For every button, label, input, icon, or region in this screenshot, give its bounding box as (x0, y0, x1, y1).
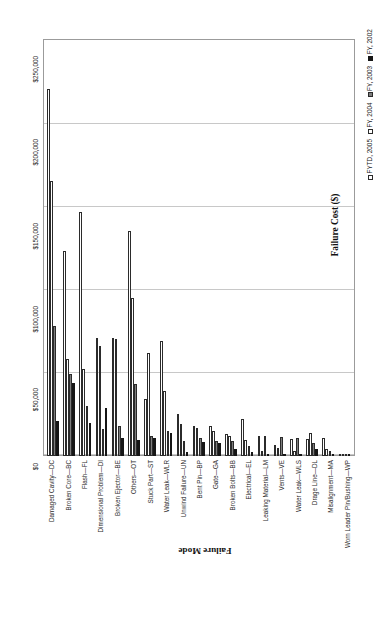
category-axis-cell: Drage Line—DL (306, 458, 322, 578)
category-axis-cell: Electrical—EL (240, 458, 256, 578)
bar-group (223, 39, 239, 456)
legend-swatch-icon (368, 129, 373, 134)
bar (283, 454, 286, 457)
bar (332, 454, 335, 456)
category-axis-tick-label: Dimensional Problem—DI (97, 460, 104, 532)
bar-group (288, 39, 304, 456)
category-axis-tick-label: Leaking Material—LM (261, 460, 268, 521)
category-axis-cell: Broken Ejector—BE (109, 458, 125, 578)
value-axis-tick-label: $250,000 (36, 56, 43, 83)
category-axis-cell: Vents—VE (273, 458, 289, 578)
legend-item: FY, 2003 (366, 66, 373, 98)
legend-item: FY, 2002 (366, 29, 373, 61)
category-axis-cell: Broken Core—BC (59, 458, 75, 578)
bar-group (239, 39, 255, 456)
category-axis-cell: Water Leak—WLR (158, 458, 174, 578)
category-axis-tick-label: Water Leak—WLR (163, 460, 170, 512)
bar (186, 452, 189, 456)
bar (89, 423, 92, 456)
bar-group (256, 39, 272, 456)
bar-group (126, 39, 142, 456)
category-axis-cell: Dimensional Problem—DI (92, 458, 108, 578)
bar-group (142, 39, 158, 456)
bar (153, 438, 156, 456)
category-axis-cell: Misalignment—MA (322, 458, 338, 578)
bar (267, 454, 270, 457)
bar-group (175, 39, 191, 456)
legend-swatch-icon (368, 56, 373, 61)
bar-group (207, 39, 223, 456)
category-axis-tick-label: Vents—VE (278, 460, 285, 490)
legend-item: FYTD, 2005 (366, 139, 373, 180)
category-axis-cell: Gate—GA (207, 458, 223, 578)
bar (251, 452, 254, 456)
bar (56, 421, 59, 456)
chart-canvas: $0$50,000$100,000$150,000$200,000$250,00… (0, 0, 386, 621)
bar-group (272, 39, 288, 456)
value-axis-tick-label: $200,000 (36, 139, 43, 166)
bar (218, 443, 221, 456)
bar (299, 454, 302, 456)
category-axis-cell: Bent Pin—BP (191, 458, 207, 578)
category-axis-tick-label: Stuck Part—ST (146, 460, 153, 503)
value-axis: $0$50,000$100,000$150,000$200,000$250,00… (0, 39, 43, 456)
legend-label: FYTD, 2005 (366, 139, 373, 173)
legend-item: FY, 2004 (366, 102, 373, 134)
category-axis-tick-label: Bent Pin—BP (196, 460, 203, 499)
category-axis-tick-label: Water Leak—WLS (294, 460, 301, 512)
bar-group (45, 39, 61, 456)
bar-series-layer (43, 39, 355, 456)
bar-group (110, 39, 126, 456)
bar (137, 440, 140, 456)
bar (202, 442, 205, 456)
category-axis-cell: Stuck Part—ST (142, 458, 158, 578)
category-axis-cell: Leaking Material—LM (256, 458, 272, 578)
bar (72, 383, 75, 456)
legend-swatch-icon (368, 92, 373, 97)
category-axis-tick-label: Electrical—EL (245, 460, 252, 500)
legend-label: FY, 2002 (366, 29, 373, 54)
category-axis-tick-label: Others—OT (130, 460, 137, 494)
bar-group (158, 39, 174, 456)
category-axis-cell: Unwind Failure—UN (174, 458, 190, 578)
category-axis-tick-label: Unwind Failure—UN (179, 460, 186, 517)
category-axis-tick-label: Worn Leader Pin/Bushing—WP (343, 460, 350, 548)
category-axis-cell: Damaged Cavity—DC (43, 458, 59, 578)
bar-group (304, 39, 320, 456)
category-axis-cell: Worn Leader Pin/Bushing—WP (339, 458, 355, 578)
category-axis: Damaged Cavity—DCBroken Core—BCFlash—FLD… (43, 458, 355, 578)
bar-group (94, 39, 110, 456)
category-axis-tick-label: Broken Core—BC (64, 460, 71, 510)
bar (121, 438, 124, 456)
category-axis-tick-label: Damaged Cavity—DC (48, 460, 55, 522)
bar-group (191, 39, 207, 456)
category-axis-tick-label: Broken Bolts—BB (228, 460, 235, 510)
category-axis-tick-label: Gate—GA (212, 460, 219, 489)
legend-swatch-icon (368, 175, 373, 180)
category-axis-cell: Others—OT (125, 458, 141, 578)
value-axis-title: Failure Cost ($) (330, 165, 344, 285)
bar (348, 454, 351, 456)
category-axis-title: Failure Mode (150, 546, 260, 556)
category-axis-tick-label: Drage Line—DL (310, 460, 317, 505)
bar (170, 433, 173, 456)
legend-label: FY, 2004 (366, 102, 373, 127)
bar-group (77, 39, 93, 456)
chart-legend: FYTD, 2005FY, 2004FY, 2003FY, 2002 (366, 24, 380, 180)
bar-group (61, 39, 77, 456)
category-axis-tick-label: Broken Ejector—BE (113, 460, 120, 516)
bar (234, 449, 237, 457)
category-axis-tick-label: Misalignment—MA (327, 460, 334, 513)
value-axis-tick-label: $50,000 (36, 388, 43, 411)
value-axis-tick-label: $100,000 (36, 306, 43, 333)
value-axis-tick-label: $150,000 (36, 223, 43, 250)
category-axis-cell: Water Leak—WLS (289, 458, 305, 578)
category-axis-cell: Flash—FL (76, 458, 92, 578)
bar (105, 408, 108, 456)
category-axis-tick-label: Flash—FL (81, 460, 88, 489)
category-axis-cell: Broken Bolts—BB (224, 458, 240, 578)
bar (315, 449, 318, 457)
legend-label: FY, 2003 (366, 66, 373, 91)
value-axis-tick-label: $0 (36, 463, 43, 470)
